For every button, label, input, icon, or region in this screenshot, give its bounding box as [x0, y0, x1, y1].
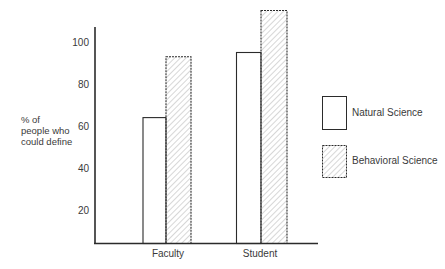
- y-tick-label-20: 20: [78, 205, 90, 216]
- x-axis-category-labels: FacultyStudent: [152, 248, 278, 259]
- bar-student-behavioral-science: [261, 11, 287, 244]
- y-axis-title-line-2: people who: [21, 125, 70, 136]
- legend-label-natural-science: Natural Science: [352, 107, 423, 118]
- bar-chart: % of people who could define 20406080100…: [0, 0, 445, 269]
- bar-faculty-behavioral-science: [166, 57, 191, 244]
- legend-swatch-natural-science: [323, 97, 347, 130]
- y-tick-label-80: 80: [78, 79, 90, 90]
- legend-label-behavioral-science: Behavioral Science: [352, 155, 438, 166]
- y-axis-title: % of people who could define: [21, 114, 72, 147]
- x-category-label-faculty: Faculty: [152, 248, 184, 259]
- y-axis-title-line-3: could define: [21, 136, 72, 147]
- y-tick-label-40: 40: [78, 163, 90, 174]
- bar-student-natural-science: [237, 53, 262, 244]
- legend: Natural Science Behavioral Science: [323, 97, 439, 178]
- bars: [143, 11, 287, 244]
- y-axis-ticks: 20406080100: [72, 37, 89, 216]
- y-axis-title-line-1: % of: [21, 114, 40, 125]
- y-tick-label-60: 60: [78, 121, 90, 132]
- x-category-label-student: Student: [243, 248, 278, 259]
- y-tick-label-100: 100: [72, 37, 89, 48]
- legend-swatch-behavioral-science: [323, 146, 347, 178]
- bar-faculty-natural-science: [143, 118, 166, 244]
